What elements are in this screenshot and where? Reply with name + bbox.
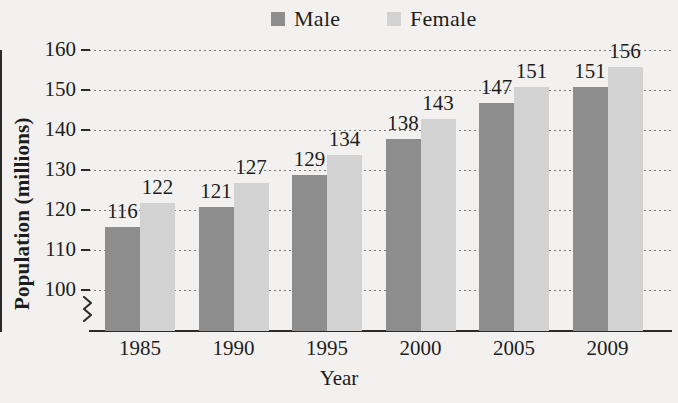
bar-male-2005 (479, 103, 514, 331)
bar-male-1995 (292, 175, 327, 331)
chart-canvas: Male Female 100110120130140150160 116122… (0, 0, 678, 403)
value-label-female-2000: 143 (415, 93, 461, 114)
legend-label-female: Female (410, 8, 477, 30)
legend-label-male: Male (294, 8, 340, 30)
bar-female-2005 (514, 87, 549, 331)
bar-female-2009 (608, 67, 643, 331)
x-tick-label-1990: 1990 (186, 338, 282, 359)
bar-female-1995 (327, 155, 362, 331)
bar-male-1990 (199, 207, 234, 331)
x-axis-title: Year (0, 368, 678, 389)
legend-swatch-male (271, 12, 285, 26)
value-label-male-1990: 121 (193, 181, 239, 202)
bar-male-2009 (573, 87, 608, 331)
y-axis-title: Population (millions) (10, 117, 35, 310)
bar-male-2000 (386, 139, 421, 331)
bar-female-2000 (421, 119, 456, 331)
bar-group-1995 (292, 50, 362, 331)
x-tick-label-2000: 2000 (373, 338, 469, 359)
y-axis-line (0, 50, 2, 332)
value-label-male-1985: 116 (100, 201, 146, 222)
x-tick-label-2009: 2009 (560, 338, 656, 359)
bar-female-1985 (140, 203, 175, 331)
bar-group-2009 (573, 50, 643, 331)
legend-item-female: Female (387, 6, 477, 32)
value-label-female-1995: 134 (322, 129, 368, 150)
x-tick-label-2005: 2005 (466, 338, 562, 359)
value-label-male-1995: 129 (287, 149, 333, 170)
x-tick-label-1995: 1995 (279, 338, 375, 359)
value-label-male-2009: 151 (567, 61, 613, 82)
legend-item-male: Male (271, 6, 340, 32)
legend-swatch-female (387, 12, 401, 26)
x-tick-label-1985: 1985 (92, 338, 188, 359)
bar-female-1990 (234, 183, 269, 331)
value-label-male-2000: 138 (380, 113, 426, 134)
value-label-female-2009: 156 (602, 41, 648, 62)
y-tick-label-160: 160 (18, 39, 76, 60)
value-label-female-2005: 151 (509, 61, 555, 82)
chart-legend: Male Female (0, 6, 678, 36)
bar-male-1985 (105, 227, 140, 331)
value-label-female-1985: 122 (135, 177, 181, 198)
y-tick-label-150: 150 (18, 79, 76, 100)
value-label-female-1990: 127 (228, 157, 274, 178)
